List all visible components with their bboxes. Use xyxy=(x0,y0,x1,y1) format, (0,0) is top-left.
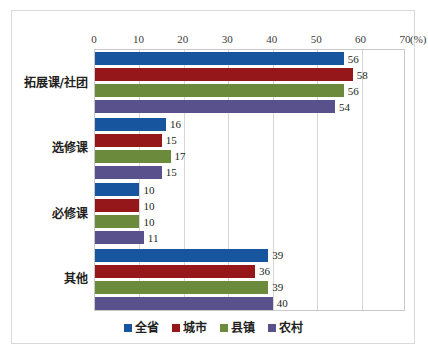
x-tick-label: 50 xyxy=(311,33,322,46)
bar-row: 39 xyxy=(95,281,406,294)
bar-row: 11 xyxy=(95,231,406,244)
bar[interactable] xyxy=(95,183,139,196)
bar-row: 58 xyxy=(95,68,406,81)
bar[interactable] xyxy=(95,199,139,212)
bar-row: 17 xyxy=(95,150,406,163)
x-axis-tick-labels: 010203040506070 xyxy=(94,33,405,47)
legend-label: 城市 xyxy=(183,321,207,335)
legend-label: 农村 xyxy=(279,321,303,335)
bar-row: 56 xyxy=(95,84,406,97)
x-tick-label: 0 xyxy=(91,33,97,46)
category-group: 必修课10101011 xyxy=(95,181,404,247)
bar-value-label: 58 xyxy=(357,68,368,81)
bar-row: 10 xyxy=(95,183,406,196)
legend-label: 县镇 xyxy=(231,321,255,335)
bar-row: 39 xyxy=(95,249,406,262)
bar[interactable] xyxy=(95,166,162,179)
bar-value-label: 10 xyxy=(143,183,154,196)
bar-value-label: 39 xyxy=(272,249,283,262)
bar-row: 54 xyxy=(95,100,406,113)
bar-value-label: 10 xyxy=(143,215,154,228)
bar-value-label: 15 xyxy=(166,134,177,147)
bar[interactable] xyxy=(95,231,144,244)
bar-value-label: 56 xyxy=(348,84,359,97)
bar-value-label: 54 xyxy=(339,100,350,113)
category-group: 其他39363940 xyxy=(95,247,404,313)
legend-item[interactable]: 城市 xyxy=(172,321,207,335)
category-axis-label: 其他 xyxy=(64,272,88,287)
x-tick-label: 40 xyxy=(266,33,277,46)
legend-item[interactable]: 县镇 xyxy=(220,321,255,335)
bar[interactable] xyxy=(95,68,353,81)
category-axis-label: 必修课 xyxy=(52,206,88,221)
x-tick-label: 30 xyxy=(222,33,233,46)
bar[interactable] xyxy=(95,265,255,278)
legend-item[interactable]: 全省 xyxy=(124,321,159,335)
bar[interactable] xyxy=(95,150,171,163)
category-axis-label: 选修课 xyxy=(52,141,88,156)
bar-value-label: 15 xyxy=(166,166,177,179)
bar-row: 40 xyxy=(95,297,406,310)
bar[interactable] xyxy=(95,100,335,113)
chart-frame: 010203040506070 (%) 拓展课/社团56585654选修课161… xyxy=(11,10,415,344)
legend-label: 全省 xyxy=(135,321,159,335)
x-tick-label: 60 xyxy=(355,33,366,46)
bar[interactable] xyxy=(95,52,344,65)
x-tick-label: 20 xyxy=(177,33,188,46)
legend-item[interactable]: 农村 xyxy=(268,321,303,335)
x-tick-label: 70 xyxy=(400,33,411,46)
x-tick-label: 10 xyxy=(133,33,144,46)
bar-row: 16 xyxy=(95,118,406,131)
bar[interactable] xyxy=(95,297,273,310)
bar[interactable] xyxy=(95,134,162,147)
bar-value-label: 40 xyxy=(277,297,288,310)
bar[interactable] xyxy=(95,118,166,131)
legend-swatch-icon xyxy=(268,324,276,332)
bar-value-label: 36 xyxy=(259,265,270,278)
bar-row: 15 xyxy=(95,166,406,179)
plot-area: 拓展课/社团56585654选修课16151715必修课10101011其他39… xyxy=(94,49,405,311)
bar-row: 10 xyxy=(95,215,406,228)
bar[interactable] xyxy=(95,249,268,262)
bar-value-label: 17 xyxy=(175,150,186,163)
legend-swatch-icon xyxy=(220,324,228,332)
bar-row: 10 xyxy=(95,199,406,212)
legend-swatch-icon xyxy=(124,324,132,332)
bar-row: 36 xyxy=(95,265,406,278)
category-group: 拓展课/社团56585654 xyxy=(95,50,404,116)
bar[interactable] xyxy=(95,281,268,294)
bar[interactable] xyxy=(95,215,139,228)
bar-row: 56 xyxy=(95,52,406,65)
bar-row: 15 xyxy=(95,134,406,147)
legend-swatch-icon xyxy=(172,324,180,332)
bar-value-label: 10 xyxy=(143,199,154,212)
category-group: 选修课16151715 xyxy=(95,116,404,182)
bar-value-label: 56 xyxy=(348,52,359,65)
category-axis-label: 拓展课/社团 xyxy=(24,75,88,90)
bar[interactable] xyxy=(95,84,344,97)
x-axis-unit-label: (%) xyxy=(410,33,427,46)
bar-value-label: 16 xyxy=(170,118,181,131)
bar-value-label: 39 xyxy=(272,281,283,294)
bar-value-label: 11 xyxy=(148,231,159,244)
chart-legend: 全省城市县镇农村 xyxy=(12,321,414,335)
